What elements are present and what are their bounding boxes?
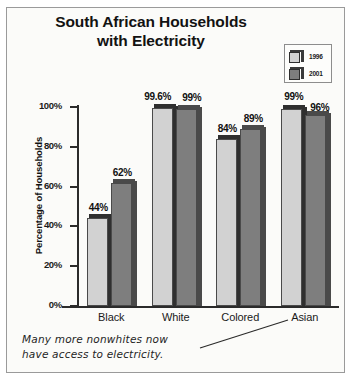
- bar-white-2001: [176, 105, 202, 306]
- bar-value-label: 89%: [236, 113, 270, 124]
- annotation-line-1: Many more nonwhites now: [22, 332, 168, 347]
- chart-title-line-1: South African Households: [20, 12, 282, 31]
- bar-value-label: 44%: [81, 202, 115, 213]
- x-axis-line: [62, 306, 339, 308]
- handwritten-annotation: Many more nonwhites now have access to e…: [22, 332, 168, 362]
- bar-black-1996: [87, 214, 113, 306]
- bar-black-2001: [111, 179, 137, 306]
- y-tick-mark: [70, 146, 78, 148]
- bar-colored-1996: [216, 135, 242, 306]
- y-tick-mark: [70, 106, 78, 108]
- chart-page: South African Households with Electricit…: [0, 0, 357, 385]
- legend-label: 2001: [309, 70, 323, 77]
- legend-item-2001: 2001: [289, 65, 331, 81]
- legend-swatch-icon: [289, 67, 305, 80]
- y-tick-mark: [70, 305, 78, 307]
- bar-value-label: 99%: [175, 92, 209, 103]
- category-label-black: Black: [79, 311, 144, 323]
- bar-value-label: 99.6%: [141, 91, 175, 102]
- y-tick-mark: [70, 265, 78, 267]
- bar-colored-2001: [240, 125, 266, 306]
- legend-item-1996: 1996: [289, 48, 331, 64]
- y-tick-mark: [70, 225, 78, 227]
- y-tick-label: 60%: [18, 180, 62, 191]
- y-tick-label: 20%: [18, 259, 62, 270]
- y-tick-mark: [70, 186, 78, 188]
- y-tick-label: 100%: [18, 100, 62, 111]
- annotation-pointer-line: [198, 318, 290, 350]
- y-tick-label: 40%: [18, 219, 62, 230]
- chart-title-line-2: with Electricity: [20, 31, 282, 50]
- chart-legend: 19962001: [284, 44, 332, 83]
- legend-label: 1996: [309, 53, 323, 60]
- bar-value-label: 84%: [210, 123, 244, 134]
- bar-asian-1996: [281, 105, 307, 306]
- annotation-line-2: have access to electricity.: [22, 347, 168, 362]
- bar-asian-2001: [305, 111, 331, 306]
- bar-value-label: 99%: [277, 91, 311, 102]
- y-tick-label: 0%: [18, 299, 62, 310]
- bar-white-1996: [152, 104, 178, 306]
- chart-title: South African Households with Electricit…: [20, 12, 282, 50]
- legend-swatch-icon: [289, 50, 305, 63]
- plot-area: [78, 107, 336, 306]
- bar-value-label: 62%: [105, 167, 139, 178]
- y-tick-label: 80%: [18, 140, 62, 151]
- bar-value-label: 96%: [303, 102, 337, 113]
